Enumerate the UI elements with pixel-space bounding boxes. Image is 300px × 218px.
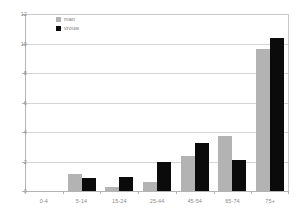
x-tickmark	[138, 191, 139, 194]
x-tick-label-0-4: 0-4	[25, 198, 63, 205]
bar-group	[251, 14, 289, 191]
x-tick-label-75plus: 75+	[251, 198, 289, 205]
bar-vrouw	[82, 178, 96, 191]
x-tick-label-15-24: 15-24	[100, 198, 138, 205]
legend-item-man: man	[56, 16, 79, 23]
x-tick-label-25-44: 25-44	[138, 198, 176, 205]
bar-vrouw	[232, 160, 246, 191]
x-axis-labels: 0-4 5-14 15-24 25-44 45-54 65-74 75+	[25, 198, 289, 205]
bar-group	[138, 14, 176, 191]
x-tickmark	[176, 191, 177, 194]
legend-swatch-icon-man	[56, 17, 61, 22]
legend-item-vrouw: vrouw	[56, 25, 79, 32]
x-tickmark	[63, 191, 64, 194]
bar-group	[176, 14, 214, 191]
legend-swatch-icon-vrouw	[56, 26, 61, 31]
bar-groups	[25, 14, 289, 191]
x-tick-label-5-14: 5-14	[63, 198, 101, 205]
bar-group	[63, 14, 101, 191]
legend-label-vrouw: vrouw	[64, 25, 79, 32]
bar-group	[214, 14, 252, 191]
x-tickmark	[100, 191, 101, 194]
x-tickmark	[251, 191, 252, 194]
bar-man	[181, 156, 195, 191]
x-tickmarks	[25, 191, 289, 195]
bar-group	[100, 14, 138, 191]
legend-label-man: man	[64, 16, 75, 23]
bar-vrouw	[119, 177, 133, 191]
x-tickmark	[288, 191, 289, 194]
bar-man	[143, 182, 157, 191]
bar-chart: 12 10 8 6 4 2 0	[0, 0, 300, 218]
x-tickmark	[214, 191, 215, 194]
bar-group	[25, 14, 63, 191]
bar-man	[256, 49, 270, 191]
bar-vrouw	[157, 162, 171, 192]
bar-vrouw	[270, 38, 284, 191]
chart-legend: man vrouw	[56, 16, 79, 32]
x-tick-label-65-74: 65-74	[214, 198, 252, 205]
bar-vrouw	[195, 143, 209, 191]
x-tickmark	[25, 191, 26, 194]
bar-man	[218, 136, 232, 191]
x-tick-label-45-54: 45-54	[176, 198, 214, 205]
bar-man	[68, 174, 82, 191]
